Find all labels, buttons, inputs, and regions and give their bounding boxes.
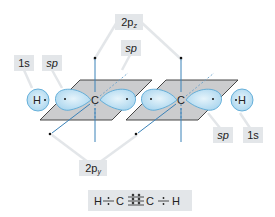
label-sp-top-text: sp	[125, 42, 137, 54]
formula-c-right: C	[146, 195, 154, 207]
acetylene-sp-hybridization-diagram: H C C H 2pz sp 1s sp sp 1s 2py	[0, 0, 275, 217]
label-2py: 2py	[79, 160, 107, 176]
label-sp-left-text: sp	[46, 57, 58, 69]
label-2py-main: 2p	[85, 162, 97, 174]
label-sp-right-text: sp	[217, 129, 229, 141]
right-c-symbol: C	[177, 94, 185, 106]
label-sp-left: sp	[42, 55, 62, 71]
pz-top-dot-left	[94, 57, 97, 60]
label-2py-sub: y	[97, 168, 101, 175]
label-sp-right: sp	[213, 127, 233, 143]
label-1s-left: 1s	[14, 55, 34, 71]
right-h-symbol: H	[238, 94, 246, 106]
formula-h-right: H	[172, 195, 180, 207]
left-c-symbol: C	[91, 94, 99, 106]
label-2pz-main: 2p	[121, 16, 133, 28]
formula-h-left: H	[94, 195, 102, 207]
pz-top-dot-right	[180, 57, 183, 60]
left-h-symbol: H	[33, 94, 41, 106]
label-2pz: 2pz	[115, 14, 143, 30]
formula-glyphs: H C C H	[88, 190, 192, 211]
label-1s-left-text: 1s	[18, 57, 30, 69]
formula-c-left: C	[116, 195, 124, 207]
label-1s-right: 1s	[243, 127, 263, 143]
diagram-canvas: H C C H	[0, 0, 275, 217]
label-1s-right-text: 1s	[247, 129, 259, 141]
acetylene-formula: H C C H	[88, 190, 192, 211]
label-sp-top: sp	[121, 40, 141, 56]
label-2pz-sub: z	[133, 22, 137, 29]
triple-bond	[128, 194, 144, 205]
